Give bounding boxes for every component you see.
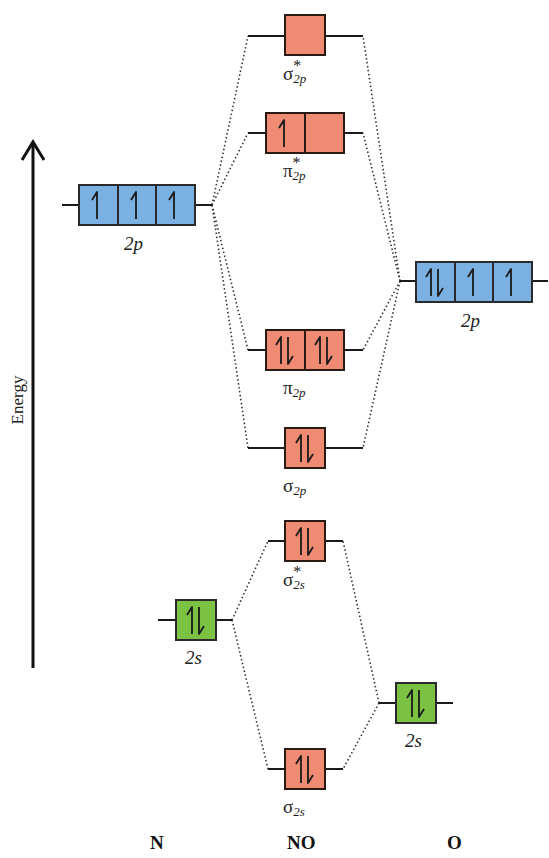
label-sigma-star-2p: σ*2p (283, 64, 309, 83)
label-o-2p: 2p (461, 311, 480, 330)
label-sigma-2s: σ2s (283, 797, 309, 816)
mo-sigma-star-2s (268, 521, 343, 561)
label-sigma-2p: σ2p (283, 476, 309, 495)
label-pi-star-2p: π*2p (283, 161, 309, 180)
label-pi-2p: π2p (283, 378, 309, 397)
label-n-2p: 2p (124, 234, 143, 253)
label-o-2s: 2s (405, 731, 422, 750)
column-label-n: N (150, 832, 164, 854)
mo-pi-2p (248, 330, 363, 370)
column-label-o: O (447, 832, 462, 854)
mo-pi-star-2p (248, 113, 363, 153)
ao-n-2p (62, 185, 212, 225)
ao-o-2p (400, 262, 548, 302)
mo-sigma-2p (248, 428, 363, 468)
label-n-2s: 2s (185, 648, 202, 667)
column-label-no: NO (287, 832, 316, 854)
ao-o-2s (379, 683, 453, 723)
mo-sigma-star-2p (248, 15, 363, 55)
energy-axis-label: Energy (8, 370, 28, 430)
ao-n-2s (158, 600, 232, 640)
mo-diagram (0, 0, 549, 858)
label-sigma-star-2s: σ*2s (283, 570, 309, 589)
mo-sigma-2s (268, 749, 343, 789)
